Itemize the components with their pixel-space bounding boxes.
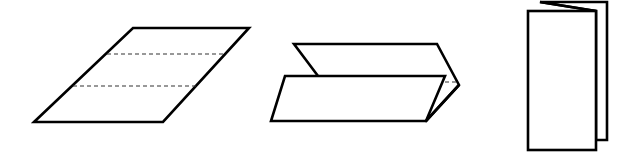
sheet-outline [34, 28, 249, 122]
step-folded-leaflet [528, 2, 607, 150]
leaflet-front-panel [528, 11, 596, 150]
diagram-canvas [0, 0, 636, 159]
step-unfolded-sheet [34, 28, 249, 122]
front-panel [271, 76, 445, 121]
step-partially-folded [271, 44, 459, 121]
paper-folding-diagram [0, 0, 636, 159]
